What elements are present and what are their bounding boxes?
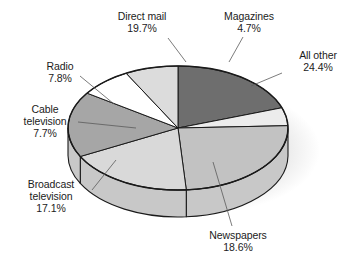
slice-label-radio: Radio 7.8% xyxy=(33,60,87,84)
slice-label-newspapers-pct: 18.6% xyxy=(196,241,280,253)
slice-label-radio-name: Radio xyxy=(33,60,87,72)
slice-label-cable-television-pct: 7.7% xyxy=(10,127,80,139)
slice-label-radio-pct: 7.8% xyxy=(33,72,87,84)
leader-line-magazines xyxy=(229,37,243,62)
slice-label-broadcast-television-name: Broadcast xyxy=(12,178,90,190)
slice-label-broadcast-television-name2: television xyxy=(12,190,90,202)
slice-label-direct-mail-name: Direct mail xyxy=(103,10,181,22)
slice-label-newspapers-name: Newspapers xyxy=(196,229,280,241)
slice-label-magazines-pct: 4.7% xyxy=(213,22,285,34)
slice-label-magazines: Magazines 4.7% xyxy=(213,10,285,34)
pie-3d-body xyxy=(68,66,288,217)
slice-label-all-other: All other 24.4% xyxy=(284,49,352,73)
slice-label-direct-mail: Direct mail 19.7% xyxy=(103,10,181,34)
slice-label-all-other-name: All other xyxy=(284,49,352,61)
leader-line-all-other xyxy=(251,73,282,86)
slice-label-magazines-name: Magazines xyxy=(213,10,285,22)
leader-line-direct-mail xyxy=(168,38,186,62)
slice-label-cable-television: Cable television 7.7% xyxy=(10,103,80,140)
slice-label-cable-television-name2: television xyxy=(10,115,80,127)
slice-label-direct-mail-pct: 19.7% xyxy=(103,22,181,34)
slice-label-newspapers: Newspapers 18.6% xyxy=(196,229,280,253)
slice-label-all-other-pct: 24.4% xyxy=(284,61,352,73)
slice-label-cable-television-name: Cable xyxy=(10,103,80,115)
slice-label-broadcast-television: Broadcast television 17.1% xyxy=(12,178,90,215)
slice-label-broadcast-television-pct: 17.1% xyxy=(12,202,90,214)
pie-chart-figure: Direct mail 19.7% Magazines 4.7% All oth… xyxy=(0,0,356,268)
